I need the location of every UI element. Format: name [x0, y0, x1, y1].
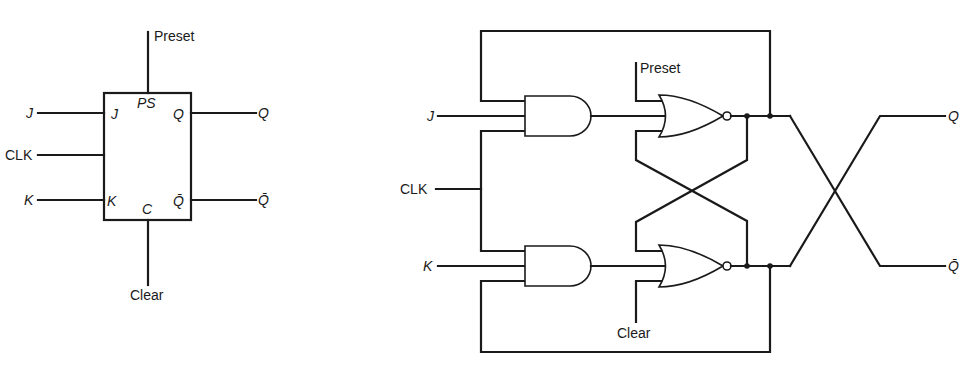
- pin-q-label: Q: [173, 106, 184, 122]
- junction-dot: [767, 113, 773, 119]
- nor-bottom-bubble: [723, 262, 731, 270]
- qbar-label: Q̄: [258, 192, 269, 208]
- j-label: J: [25, 105, 34, 121]
- pin-c-label: C: [142, 201, 153, 217]
- clear-label: Clear: [130, 287, 164, 303]
- gate-circuit: J CLK K Preset Clear: [400, 31, 959, 352]
- pin-j-label: J: [110, 106, 119, 122]
- cross-wire-bottom-input: [636, 116, 747, 251]
- junction-dot: [744, 113, 750, 119]
- clk-circuit-label: CLK: [400, 181, 428, 197]
- clk-bus-wire: [481, 131, 525, 251]
- block-symbol: Preset Clear J CLK K Q Q̄ J K PS C Q Q̄: [5, 28, 269, 303]
- and-gate-k: [525, 246, 591, 286]
- k-circuit-label: K: [423, 258, 433, 274]
- junction-dot: [767, 263, 773, 269]
- j-circuit-label: J: [426, 108, 435, 124]
- cross-wire-top-input: [636, 131, 747, 266]
- clk-label: CLK: [5, 147, 33, 163]
- q-label: Q: [258, 105, 269, 121]
- preset-circuit-label: Preset: [640, 60, 681, 76]
- q-circuit-label: Q: [948, 108, 959, 124]
- pin-k-label: K: [107, 193, 117, 209]
- k-label: K: [24, 192, 34, 208]
- nor-top-bubble: [723, 112, 731, 120]
- diagram-canvas: Preset Clear J CLK K Q Q̄ J K PS C Q Q̄ …: [0, 0, 974, 374]
- pin-ps-label: PS: [137, 95, 156, 111]
- preset-label: Preset: [154, 28, 195, 44]
- junction-dot: [744, 263, 750, 269]
- clear-circuit-label: Clear: [617, 325, 651, 341]
- nor-gate-bottom: [659, 245, 723, 287]
- and-gate-j: [525, 96, 591, 136]
- nor-gate-top: [659, 95, 723, 137]
- pin-qbar-label: Q̄: [173, 193, 184, 209]
- qbar-circuit-label: Q̄: [948, 258, 959, 274]
